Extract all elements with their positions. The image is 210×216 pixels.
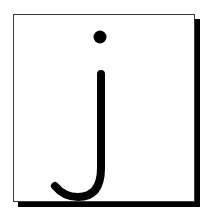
letter-j-glyph (0, 0, 210, 216)
letter-dot (94, 31, 107, 44)
letter-stem-hook (55, 74, 101, 197)
